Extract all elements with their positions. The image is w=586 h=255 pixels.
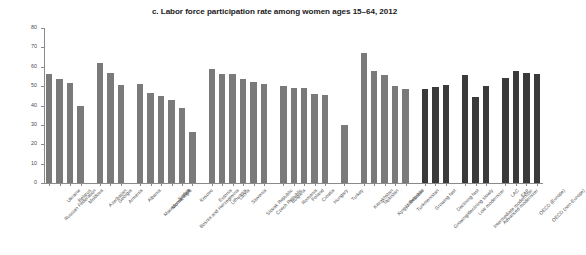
bar	[97, 63, 103, 183]
y-tick-label: 30	[31, 121, 37, 127]
x-tick-mark	[81, 183, 82, 186]
x-tick-mark	[304, 183, 305, 186]
bar	[46, 74, 52, 183]
bar	[361, 53, 367, 183]
x-tick-mark	[315, 183, 316, 186]
x-tick-label: Kosovo	[199, 188, 214, 203]
x-tick-mark	[385, 183, 386, 186]
x-tick-mark	[182, 183, 183, 186]
x-tick-mark	[395, 183, 396, 186]
x-tick-mark	[374, 183, 375, 186]
x-tick-mark	[254, 183, 255, 186]
x-tick-label: Slovenia	[250, 188, 267, 205]
bar	[462, 75, 468, 184]
x-tick-mark	[121, 183, 122, 186]
bar	[158, 96, 164, 183]
x-tick-mark	[526, 183, 527, 186]
bar	[137, 84, 143, 183]
x-tick-label: Turkey	[350, 188, 364, 202]
bar	[322, 95, 328, 183]
bar	[250, 82, 256, 183]
y-tick-label: 70	[31, 43, 37, 49]
x-tick-mark	[325, 183, 326, 186]
x-tick-mark	[233, 183, 234, 186]
bar	[502, 78, 508, 183]
x-tick-mark	[192, 183, 193, 186]
bar	[77, 106, 83, 184]
x-tick-mark	[476, 183, 477, 186]
x-tick-mark	[140, 183, 141, 186]
bar	[381, 75, 387, 184]
bar	[147, 93, 153, 183]
x-tick-mark	[505, 183, 506, 186]
bar	[341, 125, 347, 183]
x-axis-ticks	[44, 183, 543, 187]
bar	[392, 86, 398, 183]
x-tick-mark	[110, 183, 111, 186]
bar	[483, 86, 489, 183]
y-tick-label: 10	[31, 160, 37, 166]
x-tick-mark	[294, 183, 295, 186]
x-tick-mark	[243, 183, 244, 186]
bar	[118, 85, 124, 183]
x-tick-mark	[212, 183, 213, 186]
bar	[56, 79, 62, 183]
x-tick-label: Albania	[146, 188, 161, 203]
x-tick-mark	[406, 183, 407, 186]
x-tick-mark	[516, 183, 517, 186]
bar	[422, 89, 428, 183]
x-tick-mark	[49, 183, 50, 186]
bar	[179, 108, 185, 183]
bar	[229, 74, 235, 183]
x-tick-label: LAC	[510, 188, 520, 198]
x-tick-mark	[70, 183, 71, 186]
x-tick-mark	[465, 183, 466, 186]
bar	[189, 132, 195, 183]
bar-series	[44, 28, 542, 183]
x-tick-mark	[537, 183, 538, 186]
x-tick-mark	[161, 183, 162, 186]
x-tick-mark	[425, 183, 426, 186]
bar	[280, 86, 286, 183]
x-tick-mark	[60, 183, 61, 186]
bar	[513, 71, 519, 183]
x-tick-mark	[364, 183, 365, 186]
x-tick-mark	[344, 183, 345, 186]
bar	[311, 94, 317, 183]
x-tick-mark	[435, 183, 436, 186]
x-axis-labels: Russian FederationUkraineBelarusMoldovaA…	[44, 188, 543, 254]
bar	[402, 89, 408, 183]
x-tick-mark	[486, 183, 487, 186]
y-tick-label: 60	[31, 63, 37, 69]
y-tick-label: 0	[34, 179, 37, 185]
bar	[168, 100, 174, 183]
x-tick-label: Latvia	[238, 188, 251, 201]
bar	[107, 73, 113, 183]
x-tick-mark	[172, 183, 173, 186]
bar	[209, 69, 215, 183]
bar	[472, 97, 478, 183]
bar	[219, 74, 225, 183]
x-tick-mark	[222, 183, 223, 186]
bar	[443, 85, 449, 183]
bar	[523, 73, 529, 183]
y-tick-label: 50	[31, 82, 37, 88]
x-tick-mark	[100, 183, 101, 186]
x-tick-mark	[283, 183, 284, 186]
y-tick-label: 20	[31, 140, 37, 146]
bar	[371, 71, 377, 183]
bar	[291, 88, 297, 183]
bar	[534, 74, 540, 183]
y-tick-label: 40	[31, 102, 37, 108]
chart-title: c. Labor force participation rate among …	[0, 7, 549, 16]
x-tick-mark	[264, 183, 265, 186]
bar	[67, 83, 73, 183]
bar	[240, 79, 246, 183]
x-tick-mark	[151, 183, 152, 186]
bar	[432, 87, 438, 183]
x-tick-mark	[446, 183, 447, 186]
y-tick-label: 80	[31, 24, 37, 30]
bar	[261, 84, 267, 183]
bar	[301, 88, 307, 183]
